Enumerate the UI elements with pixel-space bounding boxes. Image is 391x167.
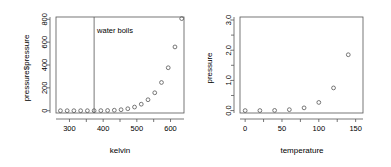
y-axis-tick-label: 0.0 bbox=[224, 105, 233, 115]
y-axis-tick-label: 1.0 bbox=[224, 75, 233, 85]
data-point bbox=[166, 66, 170, 70]
data-point bbox=[287, 108, 291, 112]
chart-panel-kelvin: 3004005006000200400600800water boils kel… bbox=[0, 0, 196, 167]
data-point bbox=[317, 101, 321, 105]
celsius-plot-svg: 0501001500.01.02.03.0 bbox=[195, 0, 391, 167]
data-point bbox=[258, 109, 262, 113]
x-axis-tick-label: 300 bbox=[63, 124, 76, 133]
x-axis-tick-label: 150 bbox=[349, 124, 362, 133]
water-boils-label: water boils bbox=[96, 26, 133, 35]
x-axis-tick-label: 500 bbox=[131, 124, 144, 133]
data-point bbox=[139, 102, 143, 106]
data-point bbox=[302, 106, 306, 110]
kelvin-plot-svg: 3004005006000200400600800water boils bbox=[0, 0, 196, 167]
data-point bbox=[133, 105, 137, 109]
data-point bbox=[126, 107, 130, 111]
data-point bbox=[112, 108, 116, 112]
data-point bbox=[160, 81, 164, 85]
data-point bbox=[79, 109, 83, 113]
figure-canvas: 3004005006000200400600800water boils kel… bbox=[0, 0, 391, 167]
data-point bbox=[243, 109, 247, 113]
data-point bbox=[59, 109, 63, 113]
data-point bbox=[173, 45, 177, 49]
data-point bbox=[99, 109, 103, 113]
x-axis-tick-label: 600 bbox=[164, 124, 177, 133]
x-axis-tick-label: 50 bbox=[278, 124, 286, 133]
y-axis-tick-label: 600 bbox=[40, 36, 49, 49]
y-axis-tick-label: 0 bbox=[40, 109, 49, 113]
data-point bbox=[72, 109, 76, 113]
data-point bbox=[146, 98, 150, 102]
data-point bbox=[153, 91, 157, 95]
data-point bbox=[106, 109, 110, 113]
data-point bbox=[119, 108, 123, 112]
data-point bbox=[85, 109, 89, 113]
data-point bbox=[65, 109, 69, 113]
data-point bbox=[346, 53, 350, 57]
chart-panel-celsius: 0501001500.01.02.03.0 temperature pressu… bbox=[195, 0, 391, 167]
x-axis-tick-label: 100 bbox=[313, 124, 326, 133]
y-axis-tick-label: 200 bbox=[40, 82, 49, 95]
data-point bbox=[332, 86, 336, 90]
data-point bbox=[273, 109, 277, 113]
plot-frame bbox=[240, 17, 363, 113]
y-axis-tick-label: 400 bbox=[40, 59, 49, 72]
x-axis-tick-label: 400 bbox=[97, 124, 110, 133]
y-axis-tick-label: 3.0 bbox=[224, 15, 233, 25]
y-axis-tick-label: 800 bbox=[40, 13, 49, 26]
y-axis-tick-label: 2.0 bbox=[224, 45, 233, 55]
x-axis-tick-label: 0 bbox=[243, 124, 247, 133]
